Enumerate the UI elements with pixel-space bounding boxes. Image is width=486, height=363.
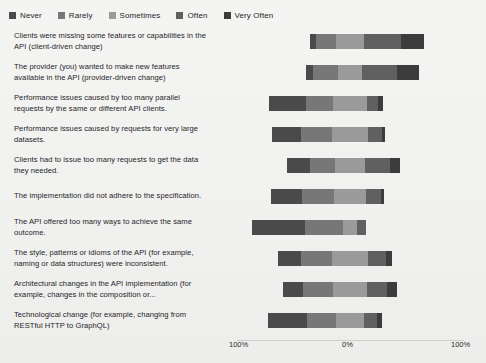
bar-segment[interactable] [357,220,366,235]
bar-rows: Clients were missing some features or ca… [0,26,486,336]
legend-swatch-icon [109,12,116,19]
bar-segment[interactable] [336,313,363,328]
bar-segment[interactable] [333,282,367,297]
stacked-bar[interactable] [310,34,424,49]
bar-area [0,88,486,119]
bar-segment[interactable] [333,96,367,111]
bar-area [0,57,486,88]
bar-segment[interactable] [367,96,378,111]
bar-segment[interactable] [397,65,420,80]
bar-segment[interactable] [386,251,392,266]
legend-label: Very Often [235,11,274,20]
legend-item[interactable]: Often [176,11,207,20]
chart-row: The style, patterns or idioms of the API… [0,243,486,274]
bar-segment[interactable] [387,282,396,297]
bar-area [0,212,486,243]
legend-swatch-icon [58,12,65,19]
legend-label: Sometimes [120,11,161,20]
bar-segment[interactable] [335,158,366,173]
bar-segment[interactable] [382,127,385,142]
bar-segment[interactable] [332,251,368,266]
bar-segment[interactable] [332,127,368,142]
bar-segment[interactable] [310,158,335,173]
likert-chart: NeverRarelySometimesOftenVery Often Clie… [0,0,486,363]
plot-area: Clients were missing some features or ca… [0,26,486,336]
axis-tick-center: 0% [342,340,353,350]
bar-area [0,150,486,181]
bar-segment[interactable] [269,96,305,111]
bar-segment[interactable] [283,282,303,297]
bar-segment[interactable] [364,34,401,49]
bar-segment[interactable] [364,313,378,328]
bar-segment[interactable] [271,189,303,204]
bar-segment[interactable] [365,158,390,173]
bar-area [0,119,486,150]
legend-swatch-icon [224,12,231,19]
bar-segment[interactable] [313,65,338,80]
stacked-bar[interactable] [272,127,386,142]
bar-segment[interactable] [366,189,381,204]
bar-segment[interactable] [278,251,301,266]
bar-segment[interactable] [307,313,337,328]
bar-segment[interactable] [336,34,363,49]
legend-item[interactable]: Very Often [224,11,274,20]
bar-area [0,181,486,212]
legend-label: Often [187,11,207,20]
bar-segment[interactable] [306,96,333,111]
bar-segment[interactable] [367,282,387,297]
chart-row: Performance issues caused by requests fo… [0,119,486,150]
chart-row: Performance issues caused by too many pa… [0,88,486,119]
chart-row: Architectural changes in the API impleme… [0,274,486,305]
bar-segment[interactable] [343,220,357,235]
stacked-bar[interactable] [271,189,385,204]
chart-row: The API offered too many ways to achieve… [0,212,486,243]
legend-label: Rarely [69,11,93,20]
bar-area [0,243,486,274]
legend-item[interactable]: Rarely [58,11,93,20]
bar-segment[interactable] [287,158,310,173]
bar-segment[interactable] [381,189,384,204]
bar-segment[interactable] [401,34,424,49]
legend-swatch-icon [176,12,183,19]
axis-tick-left: 100% [229,340,248,350]
stacked-bar[interactable] [278,251,392,266]
chart-row: Technological change (for example, chang… [0,305,486,336]
legend-item[interactable]: Sometimes [109,11,161,20]
x-axis: 100% 0% 100% [0,336,486,352]
chart-row: The provider (you) wanted to make new fe… [0,57,486,88]
chart-row: Clients were missing some features or ca… [0,26,486,57]
stacked-bar[interactable] [252,220,366,235]
bar-segment[interactable] [302,189,334,204]
bar-area [0,26,486,57]
bar-area [0,274,486,305]
legend-item[interactable]: Never [9,11,42,20]
stacked-bar[interactable] [269,96,383,111]
chart-legend: NeverRarelySometimesOftenVery Often [9,9,477,21]
bar-segment[interactable] [377,313,382,328]
bar-segment[interactable] [306,65,313,80]
bar-segment[interactable] [301,251,332,266]
stacked-bar[interactable] [283,282,397,297]
bar-segment[interactable] [252,220,304,235]
chart-row: The implementation did not adhere to the… [0,181,486,212]
bar-segment[interactable] [272,127,302,142]
bar-segment[interactable] [390,158,400,173]
bar-segment[interactable] [268,313,307,328]
bar-segment[interactable] [338,65,363,80]
bar-segment[interactable] [303,282,333,297]
bar-segment[interactable] [305,220,344,235]
bar-segment[interactable] [301,127,332,142]
stacked-bar[interactable] [306,65,420,80]
bar-segment[interactable] [368,251,386,266]
bar-segment[interactable] [368,127,382,142]
bar-segment[interactable] [316,34,336,49]
bar-segment[interactable] [334,189,366,204]
axis-tick-right: 100% [451,340,470,350]
bar-segment[interactable] [378,96,383,111]
stacked-bar[interactable] [268,313,382,328]
legend-swatch-icon [9,12,16,19]
chart-row: Clients had to issue too many requests t… [0,150,486,181]
stacked-bar[interactable] [287,158,401,173]
bar-segment[interactable] [362,65,396,80]
bar-area [0,305,486,336]
